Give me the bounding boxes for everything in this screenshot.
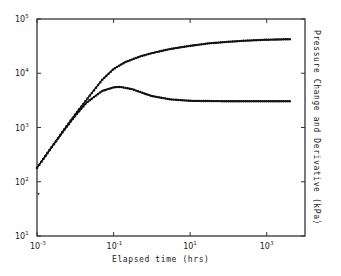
data-point	[242, 100, 244, 102]
data-point	[289, 38, 291, 40]
data-point	[99, 91, 101, 93]
data-point	[192, 100, 194, 102]
data-point	[272, 100, 274, 102]
data-point	[93, 96, 95, 98]
data-point	[217, 41, 219, 43]
data-point	[65, 126, 67, 128]
y-axis: 101102103104105	[15, 13, 305, 241]
data-point	[179, 46, 181, 48]
data-point	[131, 88, 133, 90]
data-point	[225, 100, 227, 102]
data-point	[84, 100, 86, 102]
data-point	[141, 92, 143, 94]
data-point	[284, 38, 286, 40]
data-point	[238, 100, 240, 102]
data-point	[284, 100, 286, 102]
data-point	[44, 155, 46, 157]
data-point	[190, 45, 192, 47]
data-point	[221, 100, 223, 102]
data-point	[223, 100, 225, 102]
data-point	[276, 38, 278, 40]
data-point	[152, 95, 154, 97]
data-point	[177, 47, 179, 49]
data-point	[103, 89, 105, 91]
data-point	[209, 100, 211, 102]
data-point	[124, 61, 126, 63]
data-point	[91, 92, 93, 94]
data-point	[179, 99, 181, 101]
data-point	[282, 100, 284, 102]
data-point	[36, 167, 38, 169]
data-point	[145, 93, 147, 95]
data-point	[169, 98, 171, 100]
data-point	[255, 100, 257, 102]
data-point	[135, 57, 137, 59]
data-point	[206, 42, 208, 44]
data-point	[48, 149, 50, 151]
data-point	[263, 100, 265, 102]
data-point	[240, 100, 242, 102]
data-point	[114, 67, 116, 69]
data-point	[280, 100, 282, 102]
data-point	[223, 41, 225, 43]
data-point	[150, 52, 152, 54]
data-point	[122, 86, 124, 88]
data-point	[194, 44, 196, 46]
data-point	[282, 38, 284, 40]
data-point	[200, 100, 202, 102]
data-point	[253, 100, 255, 102]
data-point	[278, 100, 280, 102]
data-point	[143, 54, 145, 56]
data-point	[160, 97, 162, 99]
y-tick-label: 101	[15, 230, 29, 241]
data-point	[181, 46, 183, 48]
data-point	[236, 40, 238, 42]
data-point	[228, 100, 230, 102]
data-point	[185, 99, 187, 101]
data-point	[257, 39, 259, 41]
data-point	[265, 39, 267, 41]
data-point	[118, 65, 120, 67]
data-point	[259, 39, 261, 41]
data-point	[86, 97, 88, 99]
data-point	[257, 100, 259, 102]
data-point	[156, 96, 158, 98]
data-point	[196, 100, 198, 102]
data-point	[158, 96, 160, 98]
data-point	[112, 69, 114, 71]
y-tick-label: 102	[15, 176, 29, 187]
y-tick-label: 105	[15, 13, 29, 24]
data-point	[154, 51, 156, 53]
data-point	[175, 47, 177, 49]
series-pressure-change	[36, 38, 291, 169]
data-point	[158, 50, 160, 52]
data-point	[287, 100, 289, 102]
data-point	[198, 43, 200, 45]
data-point	[76, 113, 78, 115]
data-point	[240, 40, 242, 42]
data-point	[280, 38, 282, 40]
data-point	[166, 98, 168, 100]
data-point	[213, 100, 215, 102]
data-point	[160, 50, 162, 52]
data-point	[230, 100, 232, 102]
data-point	[244, 100, 246, 102]
data-point	[261, 100, 263, 102]
y-tick-label: 104	[15, 67, 29, 78]
data-point	[150, 95, 152, 97]
annotations	[38, 193, 40, 195]
data-point	[268, 39, 270, 41]
data-point	[95, 94, 97, 96]
data-point	[120, 86, 122, 88]
data-point	[40, 161, 42, 163]
data-point	[249, 39, 251, 41]
data-point	[101, 90, 103, 92]
data-point	[232, 100, 234, 102]
data-point	[72, 118, 74, 120]
data-point	[255, 39, 257, 41]
data-point	[80, 108, 82, 110]
data-point	[164, 97, 166, 99]
data-point	[141, 55, 143, 57]
data-point	[93, 89, 95, 91]
data-point	[287, 38, 289, 40]
